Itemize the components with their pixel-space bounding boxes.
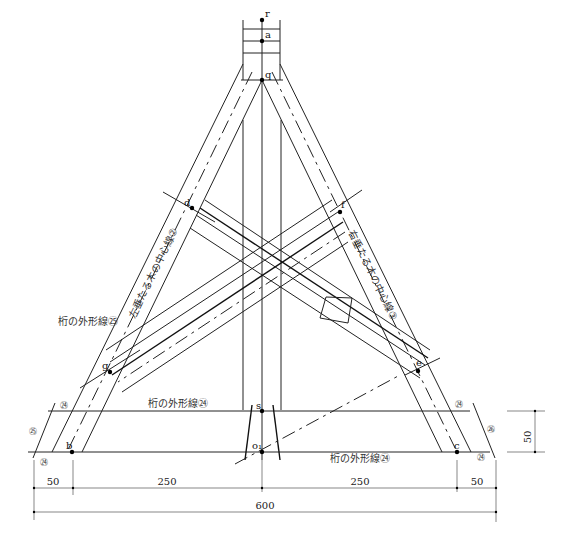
dim-total-600: 600 bbox=[255, 500, 274, 511]
beam-outline-24-lower-label: 桁の外形線㉔ bbox=[330, 452, 390, 464]
cut-line-g bbox=[80, 350, 140, 388]
marker-24-right-bottom: ㉔ bbox=[477, 453, 485, 462]
point-r: r bbox=[265, 8, 270, 19]
marker-24-left-bottom: ㉔ bbox=[40, 458, 48, 467]
point-f: f bbox=[341, 199, 346, 210]
point-c: c bbox=[454, 440, 460, 451]
dim-right-50: 50 bbox=[471, 476, 484, 487]
truss-diagram: r a q d f g e s o₁ b c 左垂たる木の中心線② 右垂たる木の… bbox=[0, 0, 567, 552]
brace-d-to-e bbox=[190, 200, 430, 378]
marker-24-right-top: ㉔ bbox=[455, 400, 463, 409]
right-rafter-centerline-label: 右垂たる木の中心線③ bbox=[346, 228, 400, 322]
horizontal-dimensions bbox=[33, 460, 497, 522]
point-e: e bbox=[416, 357, 422, 368]
points bbox=[70, 18, 459, 454]
marker-24-left-top: ㉔ bbox=[60, 401, 68, 410]
marker-26-right: ㉖ bbox=[487, 425, 495, 434]
beam-outline-25-label: 桁の外形線㉕ bbox=[58, 315, 118, 327]
dim-left-250: 250 bbox=[157, 476, 176, 487]
point-o1: o₁ bbox=[252, 440, 262, 451]
dim-right-250: 250 bbox=[350, 476, 369, 487]
diamond-mark bbox=[320, 297, 352, 323]
point-d: d bbox=[184, 197, 191, 208]
dim-vertical-50: 50 bbox=[522, 431, 533, 444]
point-q: q bbox=[265, 69, 272, 80]
dim-left-50: 50 bbox=[47, 476, 60, 487]
point-a: a bbox=[265, 29, 271, 40]
point-b: b bbox=[66, 440, 72, 451]
point-g: g bbox=[102, 360, 109, 371]
cut-line-e bbox=[405, 358, 440, 375]
beam-outline-24-upper-label: 桁の外形線㉔ bbox=[148, 397, 208, 409]
point-s: s bbox=[256, 400, 261, 411]
marker-25-left: ㉕ bbox=[29, 427, 37, 436]
